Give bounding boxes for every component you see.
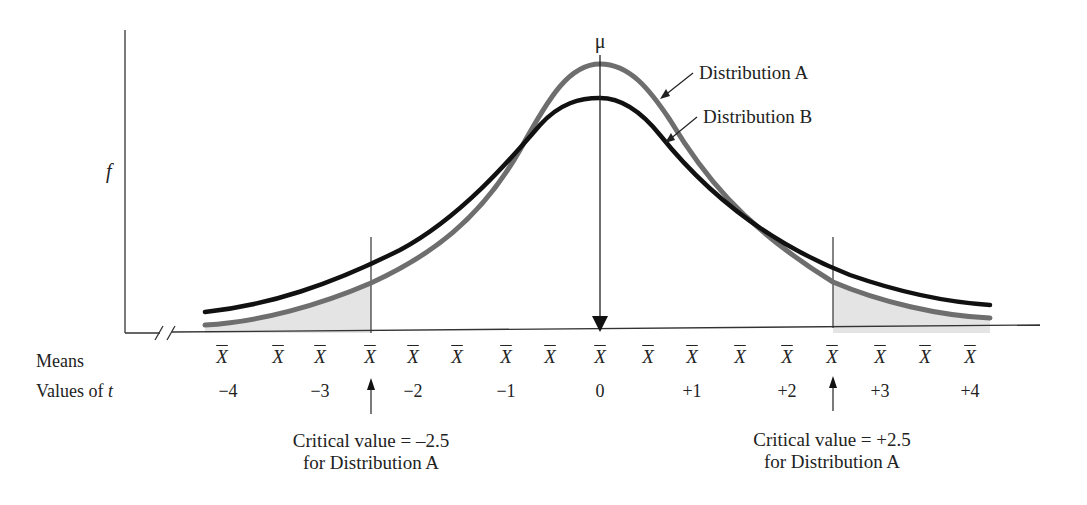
xbar-mean: X	[826, 346, 838, 368]
distribution-chart	[0, 0, 1087, 505]
xbar-mean: X	[919, 346, 931, 368]
means-row-label: Means	[36, 351, 84, 372]
t-value: −4	[218, 381, 237, 402]
xbar-mean: X	[407, 346, 419, 368]
xbar-mean: X	[364, 346, 376, 368]
xbar-mean: X	[451, 346, 463, 368]
t-row-var: t	[108, 381, 113, 401]
crit-left-arrowhead-icon	[367, 378, 375, 390]
legend-distribution-a: Distribution A	[699, 62, 808, 84]
xbar-mean: X	[874, 346, 886, 368]
xbar-mean: X	[500, 346, 512, 368]
xbar-mean: X	[734, 346, 746, 368]
xbar-mean: X	[314, 346, 326, 368]
t-value: +4	[960, 381, 979, 402]
t-value: −3	[310, 381, 329, 402]
critical-left-line1: Critical value = –2.5	[293, 430, 449, 452]
t-value: +3	[870, 381, 889, 402]
xbar-mean: X	[594, 346, 606, 368]
xbar-mean: X	[216, 346, 228, 368]
xbar-mean: X	[781, 346, 793, 368]
critical-right-line2: for Distribution A	[753, 451, 911, 473]
t-value: +2	[777, 381, 796, 402]
t-value: +1	[682, 381, 701, 402]
dist-a-arrowhead-icon	[660, 89, 670, 99]
y-axis-label: f	[106, 160, 112, 183]
xbar-mean: X	[964, 346, 976, 368]
t-row-prefix: Values of	[36, 381, 108, 401]
dist-b-arrowhead-icon	[665, 133, 675, 143]
legend-distribution-b: Distribution B	[703, 106, 812, 128]
xbar-mean: X	[642, 346, 654, 368]
xbar-mean: X	[686, 346, 698, 368]
t-value: 0	[596, 381, 605, 402]
axis-break-2	[167, 326, 175, 340]
t-value: −2	[403, 381, 422, 402]
critical-right-line1: Critical value = +2.5	[753, 429, 911, 451]
xbar-mean: X	[544, 346, 556, 368]
xbar-mean: X	[272, 346, 284, 368]
dist-a-arrow	[664, 73, 693, 96]
critical-left-line2: for Distribution A	[293, 452, 449, 474]
mu-arrowhead-icon	[592, 316, 608, 332]
distribution-b-curve	[205, 98, 990, 312]
crit-right-arrowhead-icon	[829, 376, 837, 388]
mu-label: μ	[595, 30, 606, 53]
critical-value-right-caption: Critical value = +2.5 for Distribution A	[753, 429, 911, 473]
critical-value-left-caption: Critical value = –2.5 for Distribution A	[293, 430, 449, 474]
t-value: −1	[496, 381, 515, 402]
t-row-label: Values of t	[36, 381, 113, 402]
